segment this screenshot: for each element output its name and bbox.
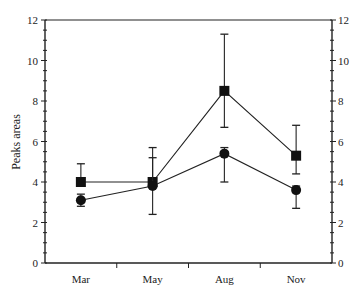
y-tick-label-right: 4 — [338, 176, 344, 188]
y-tick-label-left: 6 — [33, 136, 39, 148]
data-point-square — [291, 151, 301, 161]
square-series-line — [81, 91, 296, 182]
y-tick-label-right: 10 — [338, 55, 350, 67]
chart: 024681012024681012MarMayAugNov Peaks are… — [0, 0, 360, 299]
x-tick-label: Mar — [72, 273, 91, 285]
y-tick-label-right: 6 — [338, 136, 344, 148]
x-tick-label: May — [143, 273, 164, 285]
y-tick-label-left: 8 — [33, 95, 39, 107]
data-point-circle — [76, 195, 86, 205]
y-tick-label-right: 12 — [338, 14, 349, 26]
y-tick-label-left: 4 — [33, 176, 39, 188]
data-point-square — [219, 86, 229, 96]
data-point-circle — [291, 185, 301, 195]
data-point-square — [76, 177, 86, 187]
data-point-circle — [148, 181, 158, 191]
y-tick-label-right: 0 — [338, 257, 344, 269]
series-layer — [76, 34, 301, 214]
y-tick-label-left: 0 — [33, 257, 39, 269]
y-axis-title: Peaks areas — [9, 114, 23, 170]
circle-series-line — [81, 154, 296, 201]
y-tick-label-left: 10 — [27, 55, 39, 67]
y-tick-label-left: 12 — [27, 14, 38, 26]
y-tick-label-right: 8 — [338, 95, 344, 107]
x-tick-label: Nov — [287, 273, 306, 285]
y-tick-label-left: 2 — [33, 217, 39, 229]
y-tick-label-right: 2 — [338, 217, 344, 229]
x-tick-label: Aug — [215, 273, 234, 285]
data-point-circle — [219, 149, 229, 159]
axes: 024681012024681012MarMayAugNov — [27, 14, 350, 285]
